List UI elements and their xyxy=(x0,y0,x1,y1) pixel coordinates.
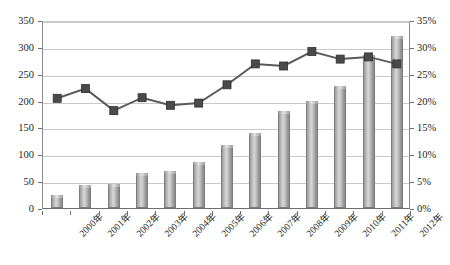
line-marker-2009年 xyxy=(308,48,316,56)
ytick-mark-right xyxy=(410,21,414,22)
ytick-left-100: 100 xyxy=(0,150,34,160)
ytick-left-50: 50 xyxy=(0,177,34,187)
line-marker-2006年 xyxy=(223,81,231,89)
xtick-mark xyxy=(184,211,185,215)
xtick-label-2003年: 2003年 xyxy=(163,211,191,239)
line-series-layer xyxy=(43,22,411,210)
ytick-left-350: 350 xyxy=(0,16,34,26)
line-marker-2011年 xyxy=(365,53,373,61)
line-marker-2003年 xyxy=(138,94,146,102)
ytick-mark-left xyxy=(38,48,42,49)
ytick-left-150: 150 xyxy=(0,123,34,133)
xtick-mark xyxy=(212,211,213,215)
ytick-left-300: 300 xyxy=(0,43,34,53)
ytick-right-10%: 10% xyxy=(417,150,450,160)
xtick-label-2011年: 2011年 xyxy=(389,211,416,238)
line-marker-2007年 xyxy=(251,60,259,68)
xtick-mark xyxy=(240,211,241,215)
xtick-label-2004年: 2004年 xyxy=(191,211,219,239)
ytick-left-0: 0 xyxy=(0,204,34,214)
xtick-label-2010年: 2010年 xyxy=(361,211,389,239)
xtick-mark xyxy=(353,211,354,215)
line-marker-2004年 xyxy=(166,101,174,109)
xtick-label-2000年: 2000年 xyxy=(78,211,106,239)
xtick-label-2001年: 2001年 xyxy=(106,211,134,239)
ytick-mark-left xyxy=(38,209,42,210)
ytick-mark-right xyxy=(410,128,414,129)
line-marker-2008年 xyxy=(280,62,288,70)
line-marker-2010年 xyxy=(336,55,344,63)
xtick-mark xyxy=(297,211,298,215)
plot-area xyxy=(42,21,410,209)
ytick-mark-right xyxy=(410,182,414,183)
ytick-mark-right xyxy=(410,102,414,103)
xtick-label-2005年: 2005年 xyxy=(219,211,247,239)
xtick-mark xyxy=(325,211,326,215)
xtick-mark xyxy=(99,211,100,215)
xtick-mark xyxy=(410,211,411,215)
line-marker-2005年 xyxy=(195,99,203,107)
ytick-right-35%: 35% xyxy=(417,16,450,26)
ytick-right-15%: 15% xyxy=(417,123,450,133)
ytick-left-250: 250 xyxy=(0,70,34,80)
xtick-label-2002年: 2002年 xyxy=(134,211,162,239)
line-marker-2001年 xyxy=(82,85,90,93)
chart-container: 2000年2001年2002年2003年2004年2005年2006年2007年… xyxy=(0,0,450,265)
xtick-mark xyxy=(42,211,43,215)
ytick-mark-right xyxy=(410,209,414,210)
ytick-mark-right xyxy=(410,48,414,49)
xtick-mark xyxy=(382,211,383,215)
ytick-right-0%: 0% xyxy=(417,204,450,214)
ytick-mark-left xyxy=(38,128,42,129)
line-marker-2012年 xyxy=(393,60,401,68)
xtick-label-2006年: 2006年 xyxy=(247,211,275,239)
ytick-right-20%: 20% xyxy=(417,97,450,107)
ytick-left-200: 200 xyxy=(0,97,34,107)
xtick-mark xyxy=(155,211,156,215)
ytick-mark-right xyxy=(410,75,414,76)
xtick-label-2009年: 2009年 xyxy=(332,211,360,239)
xtick-label-2007年: 2007年 xyxy=(276,211,304,239)
ytick-mark-left xyxy=(38,21,42,22)
xtick-label-2012年: 2012年 xyxy=(417,211,445,239)
line-marker-2000年 xyxy=(53,94,61,102)
ytick-right-25%: 25% xyxy=(417,70,450,80)
xtick-label-2008年: 2008年 xyxy=(304,211,332,239)
xtick-mark xyxy=(70,211,71,215)
xtick-mark xyxy=(127,211,128,215)
ytick-mark-left xyxy=(38,75,42,76)
ytick-right-30%: 30% xyxy=(417,43,450,53)
ytick-mark-left xyxy=(38,102,42,103)
ytick-mark-left xyxy=(38,182,42,183)
ytick-mark-right xyxy=(410,155,414,156)
ytick-mark-left xyxy=(38,155,42,156)
xtick-mark xyxy=(268,211,269,215)
year-axis: 2000年2001年2002年2003年2004年2005年2006年2007年… xyxy=(42,211,410,265)
ytick-right-5%: 5% xyxy=(417,177,450,187)
line-marker-2002年 xyxy=(110,107,118,115)
